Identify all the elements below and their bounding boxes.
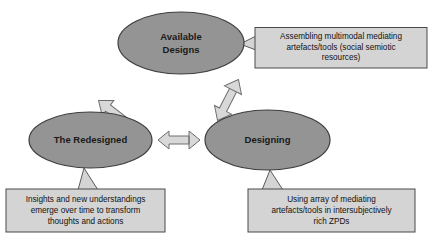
node-designing[interactable]: Designing — [205, 110, 330, 170]
callout-line: rich ZPDs — [314, 217, 350, 226]
callout-designing: Using array of mediating artefacts/tools… — [248, 170, 415, 232]
callout-tail-designing — [262, 170, 283, 190]
diagram-figure: Assembling multimodal mediating artefact… — [0, 0, 430, 244]
arrow-redesigned-designing — [158, 131, 200, 149]
node-label-line: Designing — [245, 134, 291, 145]
callout-line: artefacts/tools (social semiotic — [286, 43, 395, 52]
callout-line: Insights and new understandings — [26, 195, 146, 204]
node-label-line: Designs — [163, 44, 200, 55]
callout-line: Using array of mediating — [287, 195, 376, 204]
callout-line: Assembling multimodal mediating — [280, 32, 402, 41]
callout-the-redesigned: Insights and new understandings emerge o… — [6, 168, 165, 232]
node-label-line: Available — [160, 31, 201, 42]
callout-line: thoughts and actions — [48, 217, 124, 226]
callout-line: artefacts/tools in intersubjectively — [271, 206, 392, 215]
arrow-shape-double — [158, 131, 200, 149]
callout-available-designs: Assembling multimodal mediating artefact… — [240, 28, 427, 69]
callout-tail-the-redesigned — [78, 168, 98, 190]
callout-line: emerge over time to transform — [31, 206, 141, 215]
diagram-canvas: Assembling multimodal mediating artefact… — [0, 0, 430, 244]
node-the-redesigned[interactable]: The Redesigned — [29, 112, 152, 168]
node-available-designs[interactable]: Available Designs — [118, 12, 244, 74]
node-label-line: The Redesigned — [54, 134, 128, 145]
callout-line: resources) — [322, 53, 361, 62]
